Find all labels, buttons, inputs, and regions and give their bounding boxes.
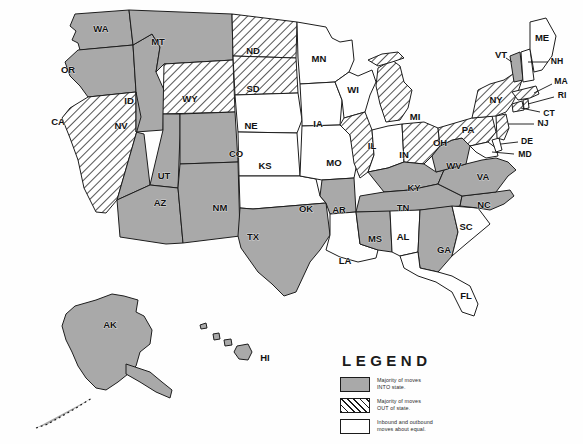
state-ND[interactable] <box>232 14 297 58</box>
label-NY: NY <box>489 94 503 105</box>
state-HI-1 <box>200 323 207 329</box>
label-CT: CT <box>543 108 555 118</box>
label-ND: ND <box>246 45 260 56</box>
state-HI-3 <box>224 339 232 346</box>
label-LA: LA <box>339 255 352 266</box>
label-AL: AL <box>397 231 410 242</box>
legend-label-equal: Inbound and outbound moves about equal. <box>377 418 433 434</box>
label-TN: TN <box>397 202 410 213</box>
legend-swatch-in <box>340 377 370 392</box>
legend-item-equal: Inbound and outbound moves about equal. <box>340 418 525 434</box>
state-TX[interactable] <box>238 203 330 296</box>
label-UT: UT <box>158 170 171 181</box>
label-VA: VA <box>477 171 490 182</box>
state-GA[interactable] <box>418 206 458 272</box>
label-WI: WI <box>347 84 359 95</box>
label-NM: NM <box>213 202 228 213</box>
label-CA: CA <box>51 116 65 127</box>
label-OH: OH <box>433 137 447 148</box>
label-VT: VT <box>495 49 507 60</box>
legend: LEGEND Majority of moves INTO state. Maj… <box>340 352 525 439</box>
legend-item-in: Majority of moves INTO state. <box>340 376 525 392</box>
state-HI-2 <box>213 333 220 340</box>
map-figure: WA OR CA ID NV MT WY UT AZ CO NM ND SD N… <box>0 0 583 444</box>
label-KS: KS <box>258 160 271 171</box>
legend-label-out: Majority of moves OUT of state. <box>377 397 421 413</box>
label-NH: NH <box>551 56 563 66</box>
label-OR: OR <box>61 64 75 75</box>
legend-label-equal-line2: moves about equal. <box>377 426 433 433</box>
state-WY[interactable] <box>163 60 235 114</box>
label-DE: DE <box>521 136 533 146</box>
legend-label-in-line1: Majority of moves <box>377 377 421 384</box>
legend-label-out-line2: OUT of state. <box>377 405 421 412</box>
state-SD[interactable] <box>233 56 298 95</box>
state-NJ[interactable] <box>496 114 509 140</box>
label-MI: MI <box>410 111 421 122</box>
legend-item-out: Majority of moves OUT of state. <box>340 397 525 413</box>
label-IA: IA <box>313 118 323 129</box>
state-OR[interactable] <box>65 45 136 97</box>
label-AR: AR <box>332 204 346 215</box>
state-AK-aleutians <box>36 398 92 428</box>
label-OK: OK <box>299 203 313 214</box>
label-NC: NC <box>477 199 491 210</box>
label-NV: NV <box>114 120 128 131</box>
label-AK: AK <box>103 319 117 330</box>
label-CO: CO <box>229 148 243 159</box>
legend-swatch-out <box>340 398 370 413</box>
state-CT[interactable] <box>512 101 524 112</box>
leader-DE <box>501 142 518 144</box>
label-SC: SC <box>459 221 472 232</box>
label-MO: MO <box>326 157 341 168</box>
label-IN: IN <box>399 149 409 160</box>
label-NE: NE <box>244 120 257 131</box>
label-RI: RI <box>558 90 567 100</box>
state-MI[interactable] <box>376 60 412 122</box>
label-MA: MA <box>554 76 567 86</box>
label-TX: TX <box>247 231 260 242</box>
label-MD: MD <box>518 149 531 159</box>
label-WA: WA <box>93 23 108 34</box>
label-AZ: AZ <box>154 197 167 208</box>
label-PA: PA <box>462 124 475 135</box>
leader-RI <box>528 97 554 104</box>
legend-label-in-line2: INTO state. <box>377 384 421 391</box>
state-MI2 <box>368 52 404 66</box>
label-MT: MT <box>151 36 165 47</box>
legend-label-out-line1: Majority of moves <box>377 398 421 405</box>
label-ME: ME <box>535 32 549 43</box>
label-HI: HI <box>260 352 270 363</box>
label-FL: FL <box>460 290 472 301</box>
label-MN: MN <box>312 53 327 64</box>
label-WY: WY <box>182 93 198 104</box>
legend-label-equal-line1: Inbound and outbound <box>377 419 433 426</box>
label-ID: ID <box>124 95 134 106</box>
label-GA: GA <box>437 244 451 255</box>
label-NJ: NJ <box>538 118 549 128</box>
legend-label-in: Majority of moves INTO state. <box>377 376 421 392</box>
label-KY: KY <box>407 182 421 193</box>
label-WV: WV <box>446 160 462 171</box>
label-MS: MS <box>368 233 382 244</box>
state-HI-4[interactable] <box>234 344 252 360</box>
legend-swatch-equal <box>340 419 370 434</box>
state-AK-pan <box>126 364 172 398</box>
legend-title: LEGEND <box>342 352 525 369</box>
state-NM[interactable] <box>178 162 240 243</box>
label-IL: IL <box>368 140 377 151</box>
label-SD: SD <box>246 83 259 94</box>
